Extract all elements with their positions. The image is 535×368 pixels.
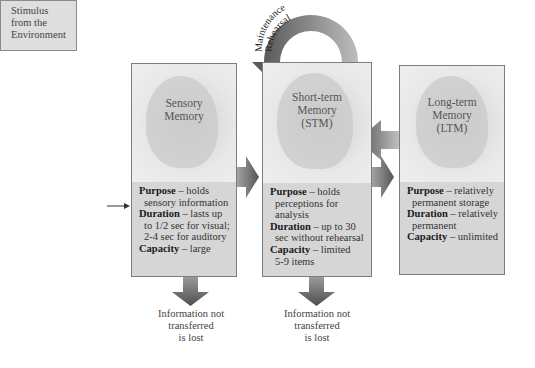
long-term-memory-box: Long-termMemory(LTM) Purpose – relativel… bbox=[399, 65, 505, 275]
sensory-title: SensoryMemory bbox=[132, 97, 236, 123]
sensory-loss-arrow bbox=[172, 277, 209, 306]
ltm-title: Long-termMemory(LTM) bbox=[400, 96, 504, 135]
ltm-head-area: Long-termMemory(LTM) bbox=[400, 66, 504, 183]
sensory-details: Purpose – holds sensory information Dura… bbox=[132, 182, 236, 276]
sensory-memory-box: SensoryMemory Purpose – holds sensory in… bbox=[131, 63, 237, 277]
ltm-details: Purpose – relatively permanent storage D… bbox=[400, 182, 504, 274]
sensory-head-area: SensoryMemory bbox=[132, 64, 236, 183]
sensory-loss-note: Information nottransferredis lost bbox=[136, 308, 246, 344]
stm-title: Short-termMemory(STM) bbox=[263, 91, 371, 130]
stm-head-area: Short-termMemory(STM) bbox=[263, 63, 371, 184]
stm-loss-arrow bbox=[298, 277, 335, 306]
short-term-memory-box: Short-termMemory(STM) Purpose – holds pe… bbox=[262, 62, 372, 277]
stimulus-arrow bbox=[107, 203, 130, 209]
stm-details: Purpose – holds perceptions for analysis… bbox=[263, 183, 371, 276]
stm-loss-note: Information nottransferredis lost bbox=[262, 308, 372, 344]
